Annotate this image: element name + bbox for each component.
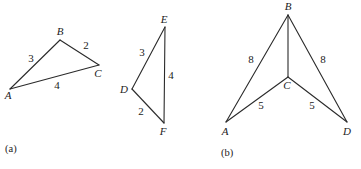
edge-bd — [288, 15, 347, 122]
edge-ab — [10, 40, 60, 89]
edge-length-cd: 5 — [309, 99, 315, 111]
edge-length-de: 3 — [139, 46, 145, 58]
edge-length-bc: 2 — [83, 39, 89, 51]
vertex-label-a: A — [221, 125, 229, 137]
vertex-label-a: A — [4, 89, 12, 101]
edge-ab — [226, 15, 288, 122]
vertex-label-d: D — [119, 83, 128, 95]
edge-bc — [60, 40, 99, 65]
edge-length-ab: 8 — [248, 53, 254, 65]
vertex-label-e: E — [160, 13, 168, 25]
edge-length-ac: 4 — [54, 79, 60, 91]
edge-de — [132, 27, 165, 89]
vertex-label-b: B — [57, 25, 64, 37]
geometry-figure: A B C 3 2 4 D E F 3 4 2 (a) B C A D 8 8 … — [0, 0, 361, 169]
caption-a: (a) — [5, 143, 17, 155]
figure-b-quadrilateral: B C A D 8 8 5 5 — [221, 0, 351, 137]
vertex-label-f: F — [159, 125, 167, 137]
edge-length-ab: 3 — [28, 52, 34, 64]
edge-length-df: 2 — [138, 105, 144, 117]
vertex-label-b: B — [285, 0, 292, 12]
edge-cd — [288, 77, 347, 122]
vertex-label-c: C — [94, 67, 102, 79]
edge-ef — [164, 27, 165, 123]
edge-df — [132, 89, 164, 123]
edge-length-bd: 8 — [320, 53, 326, 65]
edge-length-ef: 4 — [168, 69, 174, 81]
vertex-label-c: C — [283, 79, 291, 91]
triangle-abc: A B C 3 2 4 — [4, 25, 103, 101]
edge-length-ac: 5 — [258, 99, 264, 111]
edge-ac — [226, 77, 288, 122]
triangle-def: D E F 3 4 2 — [119, 13, 174, 137]
caption-b: (b) — [221, 147, 234, 159]
vertex-label-d: D — [342, 125, 351, 137]
